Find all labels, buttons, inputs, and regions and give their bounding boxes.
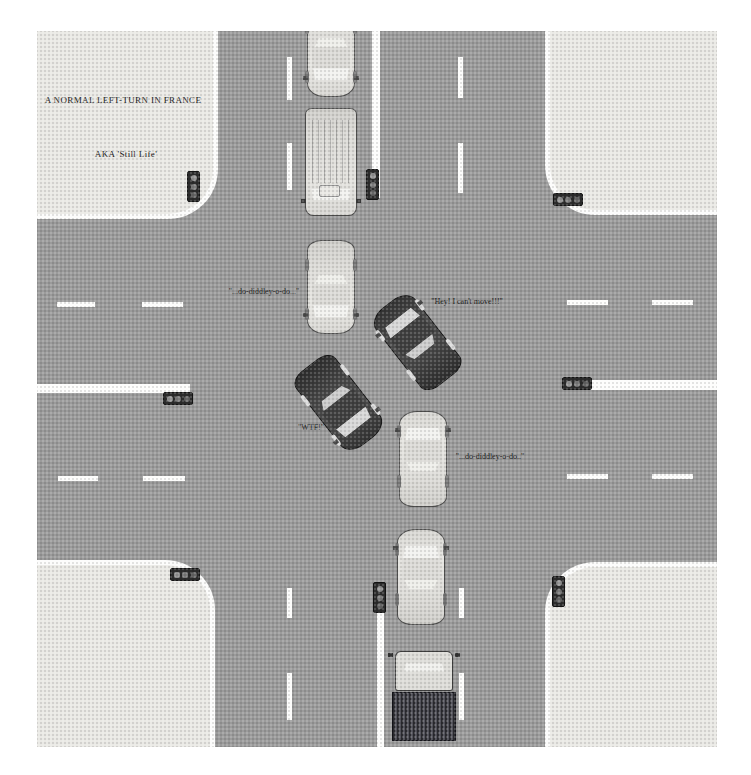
signal-lamp-icon — [191, 192, 197, 198]
signal-corner-bottom-left-icon — [170, 568, 200, 581]
lane-dash — [458, 143, 463, 193]
caption-wtf: "WTF!" — [298, 423, 324, 432]
vehicle-body — [397, 529, 445, 625]
lane-dash — [57, 302, 95, 307]
caption-diddley-north: "...do-diddley-o-do..." — [229, 287, 300, 296]
vehicle-body — [305, 108, 357, 216]
side-mirror — [455, 653, 460, 657]
caption-title: A NORMAL LEFT-TURN IN FRANCE — [45, 95, 202, 105]
windshield — [404, 663, 444, 671]
roof — [402, 558, 440, 580]
signal-lamp-icon — [167, 396, 173, 402]
center-line-east — [588, 380, 717, 390]
side-mirror — [446, 428, 451, 432]
signal-lamp-icon — [191, 572, 197, 578]
signal-lamp-icon — [565, 197, 571, 203]
signal-lamp-icon — [184, 396, 190, 402]
vehicle-body — [307, 31, 355, 97]
signal-lamp-icon — [556, 597, 562, 603]
roof — [404, 440, 442, 462]
signal-lamp-icon — [574, 381, 580, 387]
vehicle-body — [307, 240, 355, 334]
signal-lamp-icon — [175, 396, 181, 402]
lane-dash — [142, 302, 183, 307]
side-mirror — [301, 199, 306, 203]
truck-northbound-queued-icon — [392, 651, 456, 741]
side-mirror — [303, 76, 308, 80]
lane-dash — [652, 300, 693, 305]
wheel — [353, 31, 357, 34]
rear-window — [406, 462, 439, 471]
lane-dash — [458, 57, 463, 98]
wheel — [305, 259, 309, 271]
lane-dash — [287, 143, 292, 190]
car-left-turn-wtf-icon — [290, 350, 389, 456]
signal-lamp-icon — [557, 197, 563, 203]
side-mirror — [356, 199, 361, 203]
side-mirror — [303, 313, 308, 317]
wheel — [353, 259, 357, 271]
lane-dash — [58, 476, 98, 481]
hood-plate — [320, 185, 341, 197]
signal-lamp-icon — [377, 586, 383, 592]
lane-dash — [459, 588, 464, 618]
signal-west-approach-icon — [163, 392, 193, 405]
signal-lamp-icon — [556, 580, 562, 586]
signal-lamp-icon — [191, 175, 197, 181]
side-mirror — [388, 653, 393, 657]
intersection-scene: A NORMAL LEFT-TURN IN FRANCEAKA 'Still L… — [37, 31, 717, 747]
caption-subtitle: AKA 'Still Life' — [95, 149, 157, 159]
wheel — [445, 475, 449, 487]
car-southbound-queued-2-icon — [307, 240, 355, 334]
signal-lamp-icon — [182, 572, 188, 578]
windshield — [403, 546, 439, 558]
signal-lamp-icon — [377, 603, 383, 609]
signal-east-approach-icon — [562, 377, 592, 390]
cartoon-page: A NORMAL LEFT-TURN IN FRANCEAKA 'Still L… — [0, 0, 751, 775]
wheel — [443, 593, 447, 605]
side-mirror — [393, 546, 398, 550]
truck-cab — [395, 651, 453, 691]
center-line-south — [377, 612, 384, 747]
lane-dash — [287, 673, 292, 720]
lane-dash — [567, 474, 608, 479]
side-mirror — [354, 313, 359, 317]
lane-dash — [287, 588, 292, 618]
sidewalk-top-right — [545, 31, 717, 215]
signal-south-approach-icon — [373, 582, 386, 613]
signal-lamp-icon — [556, 589, 562, 595]
car-northbound-queued-1-icon — [399, 411, 447, 507]
windshield — [405, 428, 441, 440]
wheel — [397, 475, 401, 487]
car-southbound-queued-1-icon — [307, 31, 355, 97]
signal-lamp-icon — [370, 182, 376, 188]
signal-lamp-icon — [191, 184, 197, 190]
lane-dash — [287, 57, 292, 100]
side-mirror — [444, 546, 449, 550]
signal-corner-top-right-icon — [553, 193, 583, 206]
side-mirror — [395, 428, 400, 432]
signal-lamp-icon — [174, 572, 180, 578]
signal-lamp-icon — [370, 190, 376, 196]
van-southbound-queued-icon — [305, 108, 357, 216]
wheel — [395, 593, 399, 605]
lane-dash — [652, 474, 693, 479]
signal-lamp-icon — [583, 381, 589, 387]
lane-dash — [459, 673, 464, 720]
signal-north-approach-icon — [366, 169, 379, 200]
rear-window — [314, 275, 347, 284]
lane-dash — [567, 300, 608, 305]
rear-window — [314, 38, 347, 47]
signal-lamp-icon — [574, 197, 580, 203]
caption-cant-move: "Hey! I can't move!!!" — [431, 297, 503, 306]
roof — [312, 284, 350, 305]
vehicle-body — [399, 411, 447, 507]
signal-lamp-icon — [566, 381, 572, 387]
sidewalk-bottom-left — [37, 560, 215, 747]
signal-lamp-icon — [370, 173, 376, 179]
side-mirror — [354, 76, 359, 80]
roof-ribs — [313, 120, 350, 184]
rear-window — [404, 580, 437, 589]
windshield — [313, 305, 349, 317]
signal-lamp-icon — [377, 595, 383, 601]
